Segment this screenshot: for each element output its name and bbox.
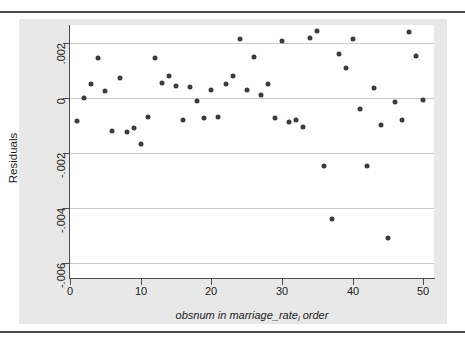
scatter-point — [251, 55, 256, 60]
scatter-point — [400, 117, 405, 122]
y-axis-title: Residuals — [7, 133, 19, 184]
gridline — [70, 98, 434, 99]
scatter-point — [216, 114, 221, 119]
scatter-point — [145, 115, 150, 120]
x-tick-label: 40 — [347, 285, 359, 297]
scatter-point — [357, 107, 362, 112]
scatter-point — [322, 163, 327, 168]
scatter-point — [117, 76, 122, 81]
figure-page: .0020-.002-.004-.006 01020304050 Residua… — [0, 0, 465, 344]
scatter-point — [167, 74, 172, 79]
scatter-point — [371, 86, 376, 91]
x-axis-title-tail: order — [300, 309, 329, 321]
scatter-point — [138, 141, 143, 146]
scatter-point — [110, 129, 115, 134]
gridline — [70, 153, 434, 154]
scatter-point — [188, 85, 193, 90]
scatter-point — [223, 82, 228, 87]
scatter-point — [273, 115, 278, 120]
scatter-point — [131, 126, 136, 131]
x-tick-label: 10 — [135, 285, 147, 297]
scatter-point — [159, 80, 164, 85]
scatter-point — [407, 30, 412, 35]
scatter-point — [308, 35, 313, 40]
gridline — [70, 208, 434, 209]
scatter-point — [343, 66, 348, 71]
x-tick-label: 0 — [67, 285, 73, 297]
scatter-point — [421, 97, 426, 102]
x-axis-title-main: obsnum in marriage_rate — [176, 309, 298, 321]
scatter-point — [82, 95, 87, 100]
scatter-point — [287, 120, 292, 125]
y-tick-label: .002 — [55, 43, 67, 64]
scatter-point — [181, 118, 186, 123]
scatter-point — [89, 82, 94, 87]
scatter-point — [152, 56, 157, 61]
scatter-point — [96, 56, 101, 61]
x-axis-line — [69, 278, 435, 279]
scatter-point — [174, 83, 179, 88]
scatter-point — [329, 217, 334, 222]
plot-region — [70, 25, 434, 278]
scatter-point — [103, 88, 108, 93]
document-rule-top — [0, 11, 465, 13]
scatter-point — [75, 119, 80, 124]
document-rule-bottom — [0, 331, 465, 333]
scatter-point — [386, 235, 391, 240]
scatter-point — [301, 124, 306, 129]
y-axis-line — [69, 25, 70, 279]
x-tick-label: 30 — [276, 285, 288, 297]
scatter-point — [124, 130, 129, 135]
scatter-point — [294, 117, 299, 122]
x-tick-label: 20 — [205, 285, 217, 297]
scatter-point — [350, 37, 355, 42]
scatter-point — [364, 164, 369, 169]
y-tick-label: 0 — [55, 98, 67, 104]
scatter-point — [379, 122, 384, 127]
scatter-point — [195, 99, 200, 104]
scatter-point — [336, 52, 341, 57]
scatter-point — [280, 39, 285, 44]
gridline — [70, 263, 434, 264]
scatter-point — [202, 115, 207, 120]
scatter-point — [244, 87, 249, 92]
scatter-point — [237, 37, 242, 42]
scatter-point — [414, 54, 419, 59]
x-axis-title: obsnum in marriage_ratei order — [176, 309, 329, 323]
scatter-point — [258, 92, 263, 97]
scatter-point — [315, 28, 320, 33]
gridline — [70, 43, 434, 44]
y-tick-label: -.006 — [55, 263, 67, 288]
y-tick-label: -.002 — [55, 153, 67, 178]
scatter-point — [230, 74, 235, 79]
scatter-point — [393, 99, 398, 104]
x-tick-label: 50 — [417, 285, 429, 297]
y-tick-label: -.004 — [55, 208, 67, 233]
scatter-point — [265, 82, 270, 87]
scatter-point — [209, 87, 214, 92]
